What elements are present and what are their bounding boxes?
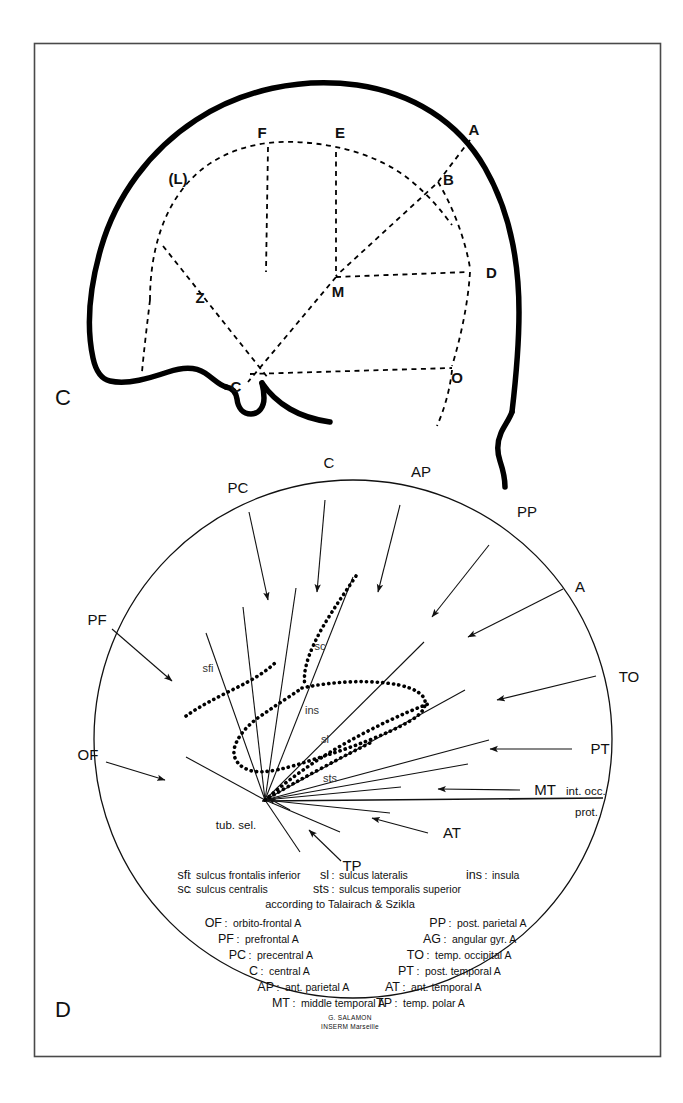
- rim-label-pt: PT: [590, 740, 609, 757]
- inner-label-sts: sts: [323, 772, 338, 784]
- point-label-f: F: [257, 124, 266, 141]
- rim-label-pc: PC: [228, 479, 249, 496]
- key-colon-3: :: [485, 869, 488, 881]
- key-art-abbr-c: C: [249, 964, 258, 978]
- key-art-colon-pp: :: [449, 917, 452, 929]
- marker-label-tub-sel: tub. sel.: [216, 819, 256, 831]
- point-label-d: D: [486, 264, 497, 281]
- key-colon-5: :: [332, 883, 335, 895]
- point-label-c: C: [231, 378, 242, 395]
- key-sulci-abbr-sts: sts: [313, 882, 329, 896]
- key-art-abbr-at: AT: [385, 980, 400, 994]
- key-art-def-pc: precentral A: [257, 949, 313, 961]
- key-art-colon-c: :: [261, 965, 264, 977]
- rim-label-of: OF: [78, 746, 99, 763]
- key-colon-1: :: [189, 869, 192, 881]
- key-sulci-abbr-ins: ins: [466, 868, 482, 882]
- panel-label-d: D: [55, 997, 71, 1022]
- key-sulci-abbr-sl: sl: [320, 868, 329, 882]
- figure-root: F E A B (L) D M Z C O C: [0, 0, 683, 1103]
- key-art-colon-pf: :: [237, 933, 240, 945]
- marker-label-int-occ: int. occ.: [566, 785, 606, 797]
- key-art-colon-pt: :: [417, 965, 420, 977]
- key-art-abbr-tp: TP: [376, 996, 392, 1010]
- point-label-m: M: [332, 283, 345, 300]
- key-art-colon-ag: :: [444, 933, 447, 945]
- key-art-def-to: temp. occipital A: [435, 949, 511, 961]
- inner-label-sc: sc: [315, 640, 327, 652]
- key-art-def-pt: post. temporal A: [425, 965, 501, 977]
- key-art-def-mt: middle temporal A: [301, 997, 385, 1009]
- page-background: [0, 0, 683, 1103]
- key-art-colon-ap: :: [277, 981, 280, 993]
- key-art-abbr-to: TO: [407, 948, 424, 962]
- point-label-o: O: [451, 369, 463, 386]
- rim-label-at: AT: [443, 824, 461, 841]
- key-sulci-def-sts: sulcus temporalis superior: [339, 883, 461, 895]
- key-art-colon-of: :: [225, 917, 228, 929]
- key-sulci-def-ins: insula: [492, 869, 520, 881]
- key-art-def-pf: prefrontal A: [245, 933, 299, 945]
- key-art-colon-mt: :: [293, 997, 296, 1009]
- rim-label-c: C: [324, 454, 335, 471]
- key-art-abbr-pc: PC: [229, 948, 246, 962]
- key-art-abbr-pf: PF: [218, 932, 234, 946]
- key-art-abbr-of: OF: [205, 916, 223, 930]
- key-colon-4: :: [189, 883, 192, 895]
- rim-label-pp: PP: [517, 503, 537, 520]
- rim-label-pf: PF: [87, 611, 106, 628]
- anatomical-figure: F E A B (L) D M Z C O C: [0, 0, 683, 1103]
- key-art-def-ag: angular gyr. A: [452, 933, 516, 945]
- key-art-def-pp: post. parietal A: [457, 917, 526, 929]
- key-art-colon-at: :: [403, 981, 406, 993]
- key-art-def-tp: temp. polar A: [403, 997, 465, 1009]
- point-label-b: B: [443, 171, 454, 188]
- rim-label-to: TO: [619, 668, 640, 685]
- key-art-def-at: ant. temporal A: [411, 981, 482, 993]
- key-art-abbr-ap: AP: [257, 980, 274, 994]
- point-label-a: A: [469, 121, 480, 138]
- rim-label-a: A: [575, 578, 585, 595]
- marker-label-prot: prot.: [575, 806, 598, 818]
- key-attribution: according to Talairach & Szikla: [265, 898, 415, 910]
- point-label-z: Z: [195, 289, 204, 306]
- inner-label-ins: ins: [305, 704, 320, 716]
- inner-label-sl: sl: [321, 733, 329, 745]
- key-art-abbr-ag: AG: [423, 932, 441, 946]
- key-sulci-def-sl: sulcus lateralis: [339, 869, 408, 881]
- key-art-def-ap: ant. parietal A: [285, 981, 349, 993]
- inner-label-sfi: sfi: [203, 662, 214, 674]
- key-colon-2: :: [332, 869, 335, 881]
- key-art-abbr-pt: PT: [398, 964, 414, 978]
- key-art-abbr-mt: MT: [272, 996, 290, 1010]
- key-art-colon-pc: :: [249, 949, 252, 961]
- panel-label-c: C: [55, 385, 71, 410]
- key-art-def-c: central A: [269, 965, 310, 977]
- point-label-e: E: [335, 124, 345, 141]
- key-sulci-def-sc: sulcus centralis: [196, 883, 268, 895]
- point-label-l: (L): [168, 170, 187, 187]
- key-art-colon-tp: :: [395, 997, 398, 1009]
- key-art-def-of: orbito-frontal A: [233, 917, 301, 929]
- credit-line-1: G. SALAMON: [328, 1014, 371, 1021]
- key-art-colon-to: :: [427, 949, 430, 961]
- credit-line-2: INSERM Marseille: [321, 1023, 379, 1030]
- rim-label-mt: MT: [534, 781, 556, 798]
- key-art-abbr-pp: PP: [429, 916, 446, 930]
- key-sulci-def-sfi: sulcus frontalis inferior: [196, 869, 301, 881]
- rim-label-ap: AP: [411, 463, 431, 480]
